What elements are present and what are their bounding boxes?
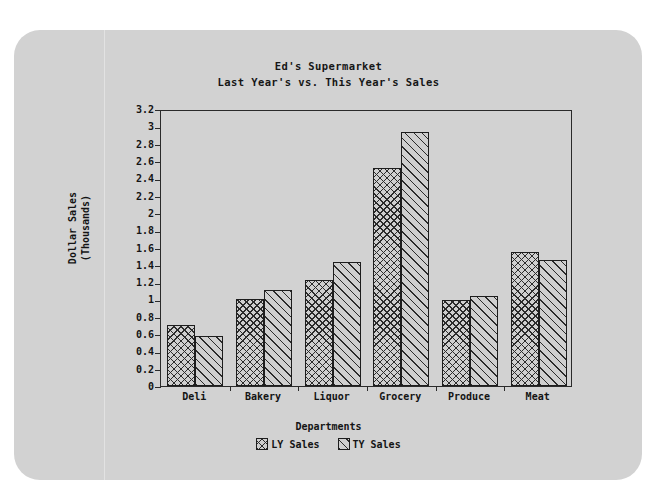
bar-deli-ty [195,336,223,386]
y-axis-tick-label-wrap: 1 [104,294,154,305]
y-axis-title: Dollar Sales (Thousands) [66,143,92,313]
y-axis-tick [155,301,161,302]
y-axis-tick-label-wrap: 3.2 [104,104,154,115]
x-axis-title: Departments [0,421,657,432]
legend-item-ly: LY Sales [256,438,319,450]
legend-label-ty: TY Sales [353,439,401,450]
bar-grocery-ly [373,168,401,386]
y-axis-tick [155,353,161,354]
y-axis-title-line1: Dollar Sales [66,143,79,313]
bar-liquor-ly [305,280,333,386]
y-axis-tick-label: 2.2 [104,191,154,202]
y-axis-tick [155,162,161,163]
scan-seam-line [104,30,105,480]
y-axis-tick-label-wrap: 0.4 [104,346,154,357]
y-axis-tick-label-wrap: 1.6 [104,243,154,254]
bar-bakery-ly [236,299,264,386]
y-axis-tick-label-wrap: 3 [104,121,154,132]
y-axis-tick [155,180,161,181]
y-axis-tick-label: 2.4 [104,173,154,184]
chart-subtitle: Last Year's vs. This Year's Sales [0,76,657,88]
y-axis-tick [155,145,161,146]
x-axis-tick-label: Liquor [297,391,366,402]
y-axis-tick-label-wrap: 2.8 [104,139,154,150]
x-axis-tick-label: Deli [160,391,229,402]
legend-swatch-diagonal-hatch-icon [338,438,350,450]
y-axis-title-line2: (Thousands) [79,143,92,313]
y-axis-tick [155,318,161,319]
y-axis-tick-label: 0.8 [104,312,154,323]
y-axis-tick-label-wrap: 0.8 [104,312,154,323]
chart-legend: LY Sales TY Sales [0,438,657,450]
y-axis-tick-label: 0.6 [104,329,154,340]
y-axis-tick-label: 0.2 [104,364,154,375]
y-axis-tick [155,110,161,111]
y-axis-tick [155,214,161,215]
scanned-chart-page: Ed's Supermarket Last Year's vs. This Ye… [0,0,657,498]
y-axis-tick [155,387,161,388]
y-axis-tick [155,249,161,250]
y-axis-tick-label: 2 [104,208,154,219]
y-axis-tick-label: 1 [104,294,154,305]
y-axis-tick-label: 2.8 [104,139,154,150]
y-axis-tick-label-wrap: 1.4 [104,260,154,271]
y-axis-tick-label-wrap: 1.8 [104,225,154,236]
y-axis-tick [155,232,161,233]
bar-grocery-ty [401,132,429,386]
bar-meat-ty [539,260,567,386]
bar-meat-ly [511,252,539,386]
y-axis-tick-label: 0 [104,381,154,392]
y-axis-tick-label-wrap: 1.2 [104,277,154,288]
y-axis-tick-label-wrap: 2 [104,208,154,219]
bar-liquor-ty [333,262,361,386]
x-axis-tick-label: Bakery [229,391,298,402]
y-axis-tick-label-wrap: 2.6 [104,156,154,167]
x-axis-tick-label: Meat [503,391,572,402]
y-axis-tick-label: 3.2 [104,104,154,115]
y-axis-tick-label: 1.2 [104,277,154,288]
bar-deli-ly [167,325,195,386]
y-axis-tick-label: 1.6 [104,243,154,254]
y-axis-tick-label-wrap: 2.4 [104,173,154,184]
bar-bakery-ty [264,290,292,386]
legend-label-ly: LY Sales [271,439,319,450]
legend-item-ty: TY Sales [338,438,401,450]
y-axis-tick [155,197,161,198]
y-axis-tick-label-wrap: 0.2 [104,364,154,375]
y-axis-tick [155,128,161,129]
y-axis-tick [155,370,161,371]
plot-area [161,111,571,386]
chart-title: Ed's Supermarket [0,60,657,72]
y-axis-tick [155,335,161,336]
y-axis-tick-label: 1.8 [104,225,154,236]
y-axis-tick [155,284,161,285]
plot-frame [160,110,572,387]
bar-produce-ly [442,300,470,386]
y-axis-tick-label: 1.4 [104,260,154,271]
legend-swatch-cross-hatch-icon [256,438,268,450]
bar-produce-ty [470,296,498,386]
y-axis-tick [155,266,161,267]
y-axis-tick-label: 2.6 [104,156,154,167]
x-axis-tick-label: Produce [435,391,504,402]
y-axis-tick-label: 3 [104,121,154,132]
y-axis-tick-label-wrap: 0 [104,381,154,392]
y-axis-tick-label-wrap: 0.6 [104,329,154,340]
y-axis-tick-label-wrap: 2.2 [104,191,154,202]
x-axis-tick-label: Grocery [366,391,435,402]
y-axis-tick-label: 0.4 [104,346,154,357]
